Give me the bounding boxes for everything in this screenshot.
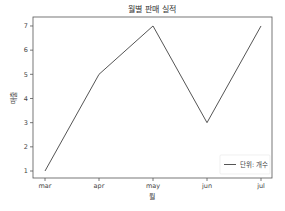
- y-tick-label: 1: [24, 167, 28, 175]
- x-axis-ticks: maraprmayjunjul: [39, 178, 266, 190]
- y-tick-label: 7: [24, 22, 28, 30]
- legend-label: 단위: 개수: [240, 160, 268, 169]
- x-tick-label: jun: [201, 182, 212, 190]
- plot-area: [33, 17, 272, 178]
- y-axis-label: 매출: [9, 91, 18, 104]
- x-axis-label: 월: [149, 192, 155, 201]
- chart-title: 월별 판매 실적: [128, 4, 175, 14]
- legend: 단위: 개수: [220, 155, 270, 174]
- y-tick-label: 3: [24, 119, 28, 127]
- line-chart: 월별 판매 실적 1234567 maraprmayjunjul 월 매출 단위…: [0, 0, 285, 211]
- x-tick-label: jul: [256, 182, 265, 190]
- x-tick-label: apr: [94, 182, 105, 190]
- y-tick-label: 6: [24, 46, 28, 54]
- x-tick-label: may: [146, 182, 160, 190]
- y-axis-ticks: 1234567: [24, 22, 33, 175]
- y-tick-label: 2: [24, 143, 28, 151]
- y-tick-label: 4: [24, 95, 28, 103]
- x-tick-label: mar: [39, 182, 52, 190]
- data-line: [45, 26, 261, 171]
- y-tick-label: 5: [24, 71, 28, 79]
